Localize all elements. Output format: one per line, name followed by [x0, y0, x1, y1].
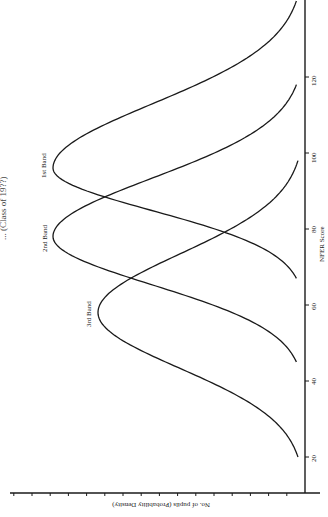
- label-2nd-band: 2nd Band: [41, 224, 49, 252]
- label-1st-band: 1st Band: [40, 153, 48, 178]
- curve-3rd-band: [98, 161, 298, 457]
- distribution-chart: 1st Band 2nd Band 3rd Band 120 100 80 60…: [0, 0, 328, 517]
- tick-label-100: 100: [310, 152, 318, 163]
- label-3rd-band: 3rd Band: [85, 301, 93, 327]
- x-axis-title: NFER Score: [318, 226, 326, 262]
- tick-label-60: 60: [310, 303, 318, 311]
- tick-label-20: 20: [310, 455, 318, 463]
- y-axis-title: No. of pupils (Probability Density): [112, 501, 210, 509]
- chart-title: ... (Class of 19??): [0, 177, 8, 240]
- curve-1st-band: [53, 1, 296, 278]
- tick-label-120: 120: [310, 75, 318, 86]
- tick-label-40: 40: [310, 378, 318, 386]
- tick-label-80: 80: [310, 226, 318, 234]
